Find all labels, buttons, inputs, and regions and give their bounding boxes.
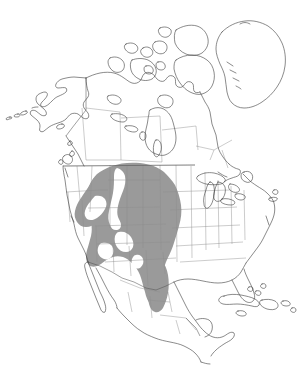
jamaica bbox=[236, 311, 246, 316]
lake-ontario bbox=[235, 194, 245, 200]
canada-arctic-coast bbox=[86, 72, 200, 92]
greenland-west-fjords bbox=[227, 62, 241, 89]
lake-superior bbox=[197, 173, 226, 185]
southampton-island bbox=[158, 95, 173, 108]
cape-cod bbox=[273, 190, 279, 195]
lesser-antilles bbox=[291, 308, 297, 313]
somerset-island bbox=[156, 62, 165, 70]
yucatan-peninsula bbox=[196, 319, 212, 338]
range-polygon bbox=[60, 155, 195, 320]
puerto-rico bbox=[281, 301, 290, 306]
bahamas-1 bbox=[248, 287, 254, 292]
central-america-isthmus bbox=[201, 362, 210, 364]
nova-scotia bbox=[229, 184, 240, 192]
lake-erie bbox=[221, 199, 235, 205]
lake-athabasca bbox=[125, 126, 138, 132]
range-map-figure: North America Range North American breed… bbox=[0, 0, 303, 368]
canada-east-coast bbox=[200, 92, 229, 164]
labrador-coast bbox=[224, 164, 240, 182]
arctic-island-c bbox=[124, 43, 137, 53]
aleutian-island-3 bbox=[6, 117, 12, 120]
prince-of-wales-island bbox=[144, 66, 153, 74]
aleutian-chain bbox=[32, 107, 38, 108]
alaska-coast bbox=[30, 77, 89, 132]
range-shading-layer bbox=[60, 155, 195, 320]
kodiak-island bbox=[57, 124, 65, 129]
bahamas-3 bbox=[261, 284, 267, 289]
greenland-north-detail bbox=[240, 23, 250, 25]
victoria-island bbox=[130, 59, 156, 81]
us-east-coast bbox=[243, 174, 275, 263]
aleutian-island-2 bbox=[14, 114, 20, 117]
chesapeake-bay bbox=[266, 216, 269, 225]
newfoundland bbox=[241, 171, 253, 182]
arctic-island-a bbox=[153, 41, 167, 54]
baffin-island bbox=[174, 55, 214, 94]
banks-island bbox=[108, 57, 124, 72]
arctic-island-d bbox=[158, 27, 171, 37]
aleutian-island-1 bbox=[21, 111, 28, 115]
arctic-island-b bbox=[141, 47, 153, 57]
bahamas-2 bbox=[255, 291, 261, 296]
hispaniola bbox=[260, 299, 278, 309]
great-bear-lake bbox=[107, 95, 121, 104]
map-canvas bbox=[0, 0, 303, 368]
greenland-coast bbox=[216, 21, 285, 108]
ellesmere-island bbox=[174, 25, 208, 55]
